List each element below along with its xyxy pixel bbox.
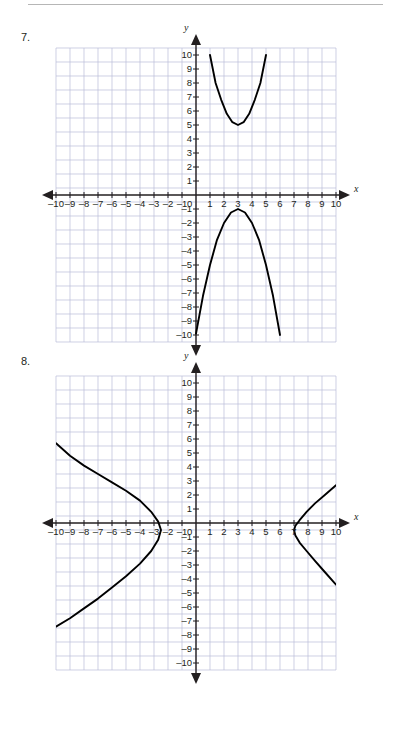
plotted-curves bbox=[56, 48, 336, 342]
y-tick-label: –4 bbox=[170, 574, 192, 584]
y-axis-name: y bbox=[184, 22, 188, 33]
y-tick-label: 9 bbox=[170, 64, 192, 74]
y-tick-label: –4 bbox=[170, 246, 192, 256]
y-tick-label: –2 bbox=[170, 218, 192, 228]
y-tick-label: –3 bbox=[170, 560, 192, 570]
y-tick-label: –8 bbox=[170, 302, 192, 312]
y-tick-label: 4 bbox=[170, 134, 192, 144]
y-axis-arrow-down bbox=[191, 673, 201, 684]
curve-downward-parabola bbox=[196, 209, 280, 335]
y-axis-arrow-up bbox=[191, 34, 201, 45]
y-tick-label: –10 bbox=[170, 330, 192, 340]
y-tick-label: 3 bbox=[170, 476, 192, 486]
y-tick-label: –9 bbox=[170, 644, 192, 654]
y-axis-arrow-up bbox=[191, 362, 201, 373]
x-axis-name: x bbox=[354, 511, 358, 522]
y-tick-label: –8 bbox=[170, 630, 192, 640]
y-tick-label: 1 bbox=[170, 176, 192, 186]
y-tick-label: 10 bbox=[170, 50, 192, 60]
x-axis-name: x bbox=[354, 183, 358, 194]
y-tick-label: –2 bbox=[170, 546, 192, 556]
y-tick-label: –6 bbox=[170, 602, 192, 612]
y-tick-label: 8 bbox=[170, 78, 192, 88]
x-tick-label: 10 bbox=[326, 527, 346, 537]
y-tick-label: –5 bbox=[170, 260, 192, 270]
graph-problem-8: –10–9–8–7–6–5–4–3–2–11234567891010987654… bbox=[0, 368, 398, 718]
y-tick-label: 10 bbox=[170, 378, 192, 388]
y-tick-label: 5 bbox=[170, 448, 192, 458]
y-tick-label: 2 bbox=[170, 162, 192, 172]
y-tick-label: 7 bbox=[170, 420, 192, 430]
y-tick-label: 5 bbox=[170, 120, 192, 130]
y-tick-label: –9 bbox=[170, 316, 192, 326]
y-tick-label: –10 bbox=[170, 658, 192, 668]
plotted-curves bbox=[56, 376, 336, 670]
x-tick-label: 10 bbox=[326, 199, 346, 209]
y-tick-label: –7 bbox=[170, 616, 192, 626]
y-axis-name: y bbox=[184, 350, 188, 361]
y-tick-label: –3 bbox=[170, 232, 192, 242]
problem-number-8: 8. bbox=[21, 355, 30, 367]
y-tick-label: –5 bbox=[170, 588, 192, 598]
coordinate-plane-7: –10–9–8–7–6–5–4–3–2–11234567891010987654… bbox=[56, 48, 336, 342]
origin-label: 0 bbox=[187, 199, 192, 209]
y-tick-label: 8 bbox=[170, 406, 192, 416]
y-tick-label: –7 bbox=[170, 288, 192, 298]
graph-problem-7: –10–9–8–7–6–5–4–3–2–11234567891010987654… bbox=[0, 40, 398, 350]
y-tick-label: 7 bbox=[170, 92, 192, 102]
y-tick-label: 9 bbox=[170, 392, 192, 402]
y-axis-arrow-down bbox=[191, 345, 201, 356]
y-tick-label: 2 bbox=[170, 490, 192, 500]
coordinate-plane-8: –10–9–8–7–6–5–4–3–2–11234567891010987654… bbox=[56, 376, 336, 670]
page-top-rule bbox=[28, 4, 383, 5]
y-tick-label: 6 bbox=[170, 434, 192, 444]
y-tick-label: 3 bbox=[170, 148, 192, 158]
origin-label: 0 bbox=[187, 527, 192, 537]
y-tick-label: –6 bbox=[170, 274, 192, 284]
y-tick-label: 6 bbox=[170, 106, 192, 116]
y-tick-label: 1 bbox=[170, 504, 192, 514]
curve-upward-parabola bbox=[210, 55, 266, 125]
y-tick-label: 4 bbox=[170, 462, 192, 472]
